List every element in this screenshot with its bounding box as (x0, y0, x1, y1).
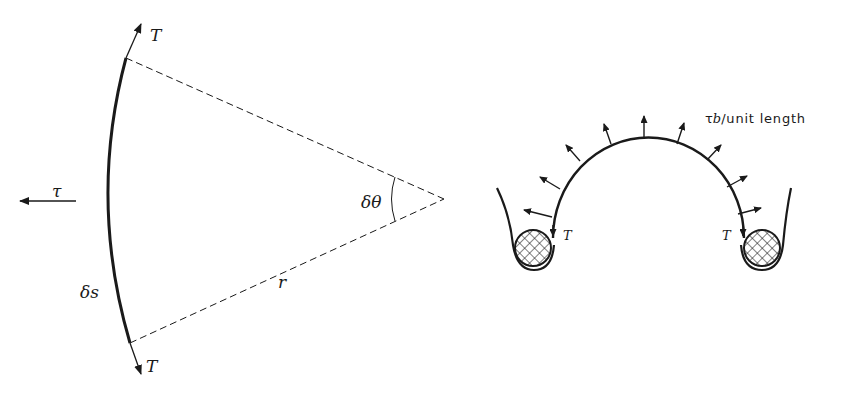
load-unit-text: /unit length (721, 111, 806, 126)
load-arrow (604, 124, 611, 144)
load-arrow (677, 123, 684, 144)
string-arc-smooth (553, 137, 744, 238)
loaded-string-figure: T T τb/unit length (497, 111, 806, 270)
load-label: τb/unit length (705, 111, 806, 126)
radius-label: r (278, 272, 287, 292)
load-arrow (707, 145, 721, 160)
left-roller (515, 230, 551, 266)
pressure-label: τ (52, 181, 62, 201)
right-roller (744, 230, 780, 266)
radius-line-bottom (130, 199, 444, 343)
load-arrow (540, 177, 560, 189)
radius-line-top (126, 58, 444, 199)
tension-label-left: T (563, 228, 573, 243)
diagram-canvas: T T τ δs r δθ T (0, 0, 844, 393)
tension-label-top: T (150, 25, 163, 45)
load-symbol: τ (705, 111, 713, 126)
string-element-figure: T T τ δs r δθ (20, 24, 444, 376)
angle-arc (392, 177, 396, 221)
arc-length-label: δs (80, 282, 99, 302)
element-arc (108, 58, 130, 343)
tension-label-bottom: T (146, 356, 159, 376)
tension-arrow-bottom (130, 343, 141, 374)
tension-arrow-top (126, 24, 141, 58)
load-arrow (566, 145, 580, 161)
load-arrow (524, 210, 552, 217)
angle-label: δθ (361, 192, 381, 212)
load-width-symbol: b (713, 111, 721, 126)
tension-label-right: T (722, 228, 732, 243)
load-arrow (727, 176, 747, 187)
